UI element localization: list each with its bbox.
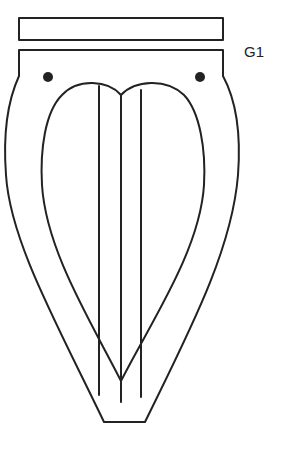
left-hole-dot — [43, 72, 53, 82]
figure-label: G1 — [244, 44, 264, 59]
g1-diagram — [0, 0, 283, 464]
right-hole-dot — [195, 72, 205, 82]
heart-outline — [42, 83, 205, 381]
top-bar — [19, 18, 223, 40]
